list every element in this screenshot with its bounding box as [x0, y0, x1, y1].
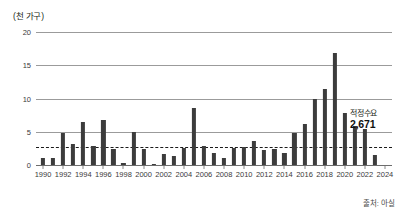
x-tick-label-2006: 2006: [196, 170, 213, 179]
x-tick-mark-2024: [384, 166, 385, 169]
bar-2023: [373, 155, 377, 165]
plot-area: 05101520: [36, 32, 392, 165]
bar-series: [36, 32, 392, 165]
x-tick-label-2016: 2016: [296, 170, 313, 179]
bar-2022: [363, 129, 367, 165]
bar-1991: [51, 158, 55, 165]
bar-2014: [282, 153, 286, 165]
x-tick-label-2020: 2020: [336, 170, 353, 179]
x-tick-mark-2012: [264, 166, 265, 169]
bar-1996: [101, 120, 105, 165]
x-tick-mark-2000: [143, 166, 144, 169]
bar-2012: [262, 150, 266, 165]
optimal-demand-annotation-value: 2,671: [350, 119, 377, 131]
bar-1995: [91, 146, 95, 165]
x-tick-label-2012: 2012: [256, 170, 273, 179]
bar-2009: [232, 148, 236, 165]
bar-1993: [71, 144, 75, 165]
x-tick-label-2014: 2014: [276, 170, 293, 179]
y-tick-label-20: 20: [23, 28, 31, 37]
x-tick-mark-2006: [203, 166, 204, 169]
y-tick-label-0: 0: [27, 161, 31, 170]
bar-2004: [182, 148, 186, 165]
bar-2008: [222, 158, 226, 165]
x-tick-mark-1990: [43, 166, 44, 169]
x-tick-label-1998: 1998: [115, 170, 132, 179]
bar-2015: [292, 133, 296, 165]
x-tick-label-1994: 1994: [75, 170, 92, 179]
x-tick-label-2010: 2010: [236, 170, 253, 179]
bar-2018: [323, 89, 327, 165]
x-tick-mark-2022: [364, 166, 365, 169]
x-tick-mark-1998: [123, 166, 124, 169]
bar-2021: [353, 126, 357, 165]
bar-1990: [41, 158, 45, 165]
x-tick-mark-2016: [304, 166, 305, 169]
x-tick-mark-2002: [163, 166, 164, 169]
y-tick-label-5: 5: [27, 127, 31, 136]
x-tick-mark-2008: [224, 166, 225, 169]
x-tick-mark-2020: [344, 166, 345, 169]
x-tick-mark-1992: [63, 166, 64, 169]
x-tick-label-2024: 2024: [377, 170, 394, 179]
y-tick-label-10: 10: [23, 94, 31, 103]
x-tick-label-2018: 2018: [316, 170, 333, 179]
x-tick-label-2008: 2008: [216, 170, 233, 179]
x-tick-mark-1994: [83, 166, 84, 169]
x-axis-tick-labels: 1990199219941996199820002002200420062008…: [36, 170, 392, 182]
x-tick-label-2000: 2000: [135, 170, 152, 179]
bar-2002: [162, 154, 166, 165]
bar-1994: [81, 122, 85, 165]
x-tick-label-1990: 1990: [35, 170, 52, 179]
y-axis-unit-label: (천 가구): [13, 9, 44, 21]
bar-2017: [312, 99, 316, 166]
x-axis-tick-marks: [36, 166, 392, 169]
x-tick-mark-2018: [324, 166, 325, 169]
bar-2016: [302, 124, 306, 165]
x-tick-label-2022: 2022: [357, 170, 374, 179]
bar-2011: [252, 141, 256, 165]
source-note: 출처: 아실: [363, 197, 395, 208]
bar-1992: [61, 133, 65, 165]
bar-2020: [343, 113, 347, 165]
x-tick-mark-2014: [284, 166, 285, 169]
bar-2007: [212, 153, 216, 165]
y-tick-label-15: 15: [23, 61, 31, 70]
x-tick-label-2002: 2002: [155, 170, 172, 179]
bar-2019: [333, 53, 337, 165]
optimal-demand-annotation: 적정수요 2,671: [350, 110, 377, 131]
bar-2010: [242, 147, 246, 165]
bar-2000: [142, 149, 146, 165]
x-tick-label-1996: 1996: [95, 170, 112, 179]
x-tick-label-2004: 2004: [175, 170, 192, 179]
bar-2006: [202, 146, 206, 165]
bar-2005: [192, 108, 196, 165]
x-tick-mark-2004: [183, 166, 184, 169]
x-tick-mark-2010: [244, 166, 245, 169]
bar-1999: [131, 132, 135, 165]
bar-1997: [111, 149, 115, 165]
household-supply-bar-chart: (천 가구) 05101520 199019921994199619982000…: [0, 0, 403, 213]
bar-2013: [272, 149, 276, 165]
x-tick-label-1992: 1992: [55, 170, 72, 179]
x-tick-mark-1996: [103, 166, 104, 169]
bar-2003: [172, 156, 176, 165]
